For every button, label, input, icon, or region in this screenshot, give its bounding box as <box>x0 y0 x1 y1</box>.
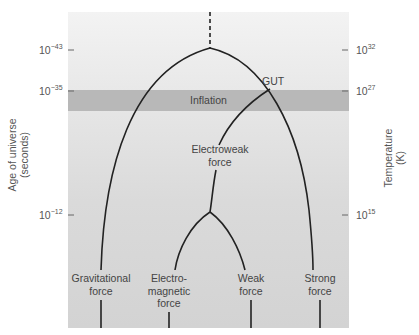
right-tick-label-15: 1015 <box>356 208 375 221</box>
right-tick-label-32: 1032 <box>356 43 375 56</box>
right-axis-title: Temperature (K) <box>382 118 406 198</box>
electroweak-label-line1: Electroweak <box>180 143 260 156</box>
right-axis-title-line1: Temperature <box>382 118 394 198</box>
strong-label-line1: Strong <box>298 272 342 285</box>
right-axis-title-line2: (K) <box>394 118 406 198</box>
electromagnetic-label-line2: magnetic <box>139 285 199 298</box>
weak-label: Weak force <box>231 272 271 297</box>
em-branch-curve <box>175 212 210 270</box>
right-tick-label-27: 1027 <box>356 84 375 97</box>
electroweak-stem <box>210 170 216 212</box>
left-axis-title-line1: Age of universe <box>6 110 18 200</box>
left-tick-label-12: 10−12 <box>39 208 63 221</box>
electromagnetic-label: Electro- magnetic force <box>139 272 199 310</box>
gravitational-label: Gravitational force <box>61 272 141 297</box>
weak-branch-curve <box>210 212 245 270</box>
left-axis-title: Age of universe (seconds) <box>6 110 30 200</box>
electromagnetic-label-line1: Electro- <box>139 272 199 285</box>
gravitational-label-line2: force <box>61 285 141 298</box>
electroweak-label: Electroweak force <box>180 143 260 168</box>
left-tick-label-35: 10−35 <box>39 84 63 97</box>
left-tick-label-43: 10−43 <box>39 43 63 56</box>
electroweak-label-line2: force <box>180 156 260 169</box>
strong-label-line2: force <box>298 285 342 298</box>
strong-label: Strong force <box>298 272 342 297</box>
gravitational-label-line1: Gravitational <box>61 272 141 285</box>
electromagnetic-label-line3: force <box>139 297 199 310</box>
gut-label: GUT <box>262 75 284 88</box>
left-axis-title-line2: (seconds) <box>18 110 30 200</box>
weak-label-line1: Weak <box>231 272 271 285</box>
weak-label-line2: force <box>231 285 271 298</box>
gut-to-electroweak-curve <box>219 89 270 145</box>
